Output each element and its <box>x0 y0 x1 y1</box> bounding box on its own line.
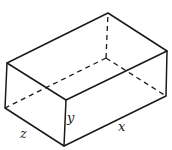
front-face <box>5 63 66 146</box>
side-face <box>64 51 167 146</box>
hidden-edge-left <box>5 58 106 108</box>
top-face <box>7 13 167 100</box>
box-figure: y z x <box>0 0 172 150</box>
label-y: y <box>66 110 75 125</box>
label-x: x <box>118 119 126 134</box>
box-diagram: y z x <box>0 0 172 150</box>
hidden-edge-vertical <box>106 13 108 58</box>
label-z: z <box>19 126 27 141</box>
